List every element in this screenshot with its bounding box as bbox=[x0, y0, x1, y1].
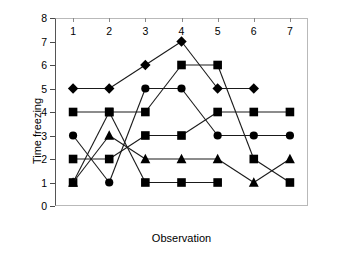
y-tick-label: 5 bbox=[41, 83, 47, 94]
data-point-square bbox=[69, 155, 78, 164]
data-point-square bbox=[286, 178, 295, 187]
data-point-circle bbox=[250, 131, 258, 139]
data-point-diamond bbox=[104, 83, 114, 93]
series-layer bbox=[55, 18, 308, 206]
data-point-square bbox=[213, 178, 222, 187]
plot-area: 012345678 1234567 bbox=[55, 18, 308, 206]
data-point-triangle bbox=[104, 130, 114, 139]
y-tick-label: 0 bbox=[41, 201, 47, 212]
data-point-diamond bbox=[249, 83, 259, 93]
y-tick-label: 6 bbox=[41, 60, 47, 71]
data-point-square bbox=[105, 108, 114, 117]
data-point-square bbox=[177, 131, 186, 140]
data-point-square bbox=[105, 155, 114, 164]
series-line-segment bbox=[109, 65, 145, 89]
data-point-circle bbox=[214, 131, 222, 139]
x-axis-title: Observation bbox=[55, 232, 308, 244]
series-line-segment bbox=[182, 112, 218, 136]
data-point-square bbox=[141, 178, 150, 187]
series-5 bbox=[69, 108, 222, 187]
series-line-segment bbox=[218, 159, 254, 183]
data-point-triangle bbox=[249, 177, 259, 186]
y-tick-mark bbox=[50, 206, 55, 207]
data-point-diamond bbox=[68, 83, 78, 93]
data-point-square bbox=[213, 108, 222, 117]
data-point-square bbox=[69, 108, 78, 117]
series-line-segment bbox=[182, 89, 218, 136]
data-point-circle bbox=[105, 178, 113, 186]
series-line-segment bbox=[73, 112, 109, 183]
data-point-square bbox=[249, 108, 258, 117]
data-point-square bbox=[141, 108, 150, 117]
y-tick-label: 1 bbox=[41, 177, 47, 188]
y-tick-label: 2 bbox=[41, 154, 47, 165]
data-point-diamond bbox=[140, 60, 150, 70]
data-point-diamond bbox=[176, 36, 186, 46]
data-point-diamond bbox=[212, 83, 222, 93]
data-point-square bbox=[177, 61, 186, 70]
data-point-circle bbox=[286, 131, 294, 139]
data-point-square bbox=[213, 61, 222, 70]
data-point-square bbox=[177, 178, 186, 187]
series-line-segment bbox=[109, 89, 145, 183]
y-tick-label: 3 bbox=[41, 130, 47, 141]
series-line-segment bbox=[145, 42, 181, 66]
data-point-square bbox=[286, 108, 295, 117]
data-point-circle bbox=[177, 84, 185, 92]
data-point-circle bbox=[69, 131, 77, 139]
data-point-square bbox=[249, 155, 258, 164]
data-point-circle bbox=[141, 84, 149, 92]
y-tick-label: 7 bbox=[41, 36, 47, 47]
y-tick-label: 8 bbox=[41, 13, 47, 24]
data-point-triangle bbox=[285, 154, 295, 163]
series-1 bbox=[68, 36, 259, 93]
data-point-square bbox=[141, 131, 150, 140]
y-tick-label: 4 bbox=[41, 107, 47, 118]
chart-figure: Time freezing 012345678 1234567 Observat… bbox=[0, 0, 342, 261]
